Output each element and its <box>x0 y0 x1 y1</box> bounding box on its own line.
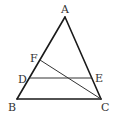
label-A: A <box>60 3 70 16</box>
label-F: F <box>30 52 38 65</box>
label-B: B <box>8 101 16 114</box>
segment-AB <box>17 17 65 99</box>
segment-AC <box>65 17 101 99</box>
label-E: E <box>95 72 103 85</box>
label-C: C <box>101 101 109 114</box>
triangle-diagram: A B C D E F <box>0 0 114 117</box>
label-D: D <box>18 73 27 86</box>
